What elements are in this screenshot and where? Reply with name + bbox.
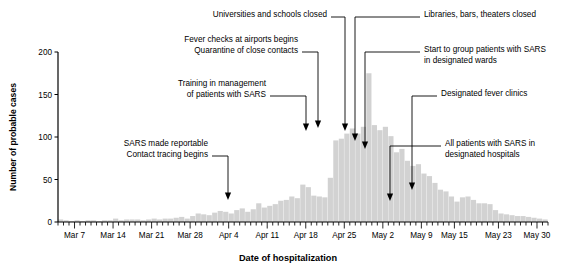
bar bbox=[289, 197, 294, 223]
y-axis-tick-label: 50 bbox=[43, 176, 53, 185]
bar bbox=[207, 215, 212, 222]
y-axis-tick-label: 0 bbox=[47, 218, 52, 227]
x-axis-tick-label: Mar 14 bbox=[100, 231, 126, 240]
y-axis-tick-label: 150 bbox=[38, 91, 52, 100]
bar bbox=[174, 218, 179, 222]
bar bbox=[311, 196, 316, 222]
bar bbox=[339, 139, 344, 222]
bar bbox=[317, 197, 322, 223]
annotation-leader-line bbox=[270, 96, 306, 124]
annotation-label: designated hospitals bbox=[445, 150, 520, 159]
bar bbox=[394, 152, 399, 222]
bar bbox=[355, 134, 360, 222]
y-axis-tick-label: 200 bbox=[38, 48, 52, 57]
bar bbox=[405, 161, 410, 222]
bar bbox=[284, 200, 289, 222]
bar bbox=[372, 125, 377, 222]
bar bbox=[515, 216, 520, 222]
bar bbox=[295, 198, 300, 222]
bar bbox=[322, 197, 327, 222]
bar bbox=[300, 185, 305, 222]
annotation-label: All patients with SARS in bbox=[445, 139, 536, 148]
annotation-label: Universities and schools closed bbox=[213, 10, 328, 19]
chart-canvas: 050100150200Number of probable casesMar … bbox=[0, 0, 576, 267]
annotation-arrowhead bbox=[342, 124, 348, 132]
x-axis-title: Date of hospitalization bbox=[239, 253, 337, 263]
bar bbox=[432, 183, 437, 222]
annotation-arrowhead bbox=[225, 193, 231, 201]
bar bbox=[498, 214, 503, 223]
bar bbox=[438, 190, 443, 222]
annotation-training-management-sars: Training in managementof patients with S… bbox=[178, 79, 309, 131]
bar bbox=[509, 215, 514, 222]
bar bbox=[328, 178, 333, 222]
bar bbox=[190, 216, 195, 222]
x-axis-tick-label: Mar 28 bbox=[177, 231, 203, 240]
bar bbox=[234, 210, 239, 222]
bar bbox=[465, 197, 470, 223]
bar bbox=[223, 212, 228, 222]
annotation-sars-reportable-contact-tracing: SARS made reportableContact tracing begi… bbox=[124, 139, 231, 200]
bar bbox=[229, 214, 234, 223]
bar bbox=[278, 201, 283, 222]
bar bbox=[399, 149, 404, 222]
bar bbox=[267, 206, 272, 222]
annotation-universities-schools-closed: Universities and schools closed bbox=[213, 10, 348, 131]
bar bbox=[520, 216, 525, 222]
bar bbox=[218, 211, 223, 222]
x-axis-tick-label: Mar 21 bbox=[139, 231, 165, 240]
bar bbox=[388, 136, 393, 222]
y-axis-tick-label: 100 bbox=[38, 133, 52, 142]
x-axis-tick-label: Apr 25 bbox=[332, 231, 357, 240]
annotation-label: in designated wards bbox=[424, 56, 497, 65]
annotation-label: Training in management bbox=[178, 79, 267, 88]
bar bbox=[531, 218, 536, 222]
bar bbox=[526, 217, 531, 222]
bar bbox=[416, 164, 421, 222]
bar bbox=[460, 197, 465, 222]
annotation-arrowhead bbox=[315, 121, 321, 129]
bar bbox=[256, 203, 261, 222]
bar bbox=[201, 214, 206, 222]
bar bbox=[427, 176, 432, 222]
annotation-leader-line bbox=[302, 52, 318, 121]
annotation-label: Designated fever clinics bbox=[441, 89, 527, 98]
bar bbox=[350, 129, 355, 223]
annotation-arrowhead bbox=[303, 124, 309, 132]
x-axis-tick-label: Apr 4 bbox=[219, 231, 239, 240]
annotation-leader-line bbox=[212, 156, 228, 193]
x-axis-tick-label: Apr 18 bbox=[294, 231, 319, 240]
bar bbox=[454, 202, 459, 222]
bar bbox=[421, 174, 426, 222]
bar bbox=[245, 212, 250, 222]
x-axis-tick-label: May 30 bbox=[524, 231, 551, 240]
bar bbox=[179, 217, 184, 222]
annotation-label: SARS made reportable bbox=[124, 139, 209, 148]
annotation-label: Contact tracing begins bbox=[127, 150, 208, 159]
bar bbox=[443, 191, 448, 222]
bar bbox=[377, 130, 382, 222]
x-axis-tick-label: Apr 11 bbox=[255, 231, 279, 240]
x-axis-tick-label: Mar 7 bbox=[64, 231, 85, 240]
annotation-label: Quarantine of close contacts bbox=[194, 46, 298, 55]
bar bbox=[482, 203, 487, 222]
bar bbox=[471, 200, 476, 222]
bar bbox=[476, 203, 481, 222]
bar bbox=[410, 166, 415, 222]
bar bbox=[504, 214, 509, 222]
bar bbox=[493, 210, 498, 222]
annotation-label: Libraries, bars, theaters closed bbox=[424, 10, 536, 19]
bar bbox=[251, 209, 256, 222]
bar bbox=[212, 213, 217, 222]
bar bbox=[273, 204, 278, 222]
bar bbox=[449, 197, 454, 223]
sars-epidemic-curve-figure: 050100150200Number of probable casesMar … bbox=[0, 0, 576, 267]
bar bbox=[383, 127, 388, 222]
bar bbox=[487, 204, 492, 222]
x-axis-tick-label: May 9 bbox=[410, 231, 433, 240]
x-axis-tick-label: May 23 bbox=[485, 231, 512, 240]
bar bbox=[333, 140, 338, 222]
annotation-libraries-bars-theaters-closed: Libraries, bars, theaters closed bbox=[352, 10, 536, 141]
annotation-label: Fever checks at airports begins bbox=[184, 35, 298, 44]
bar bbox=[196, 214, 201, 223]
